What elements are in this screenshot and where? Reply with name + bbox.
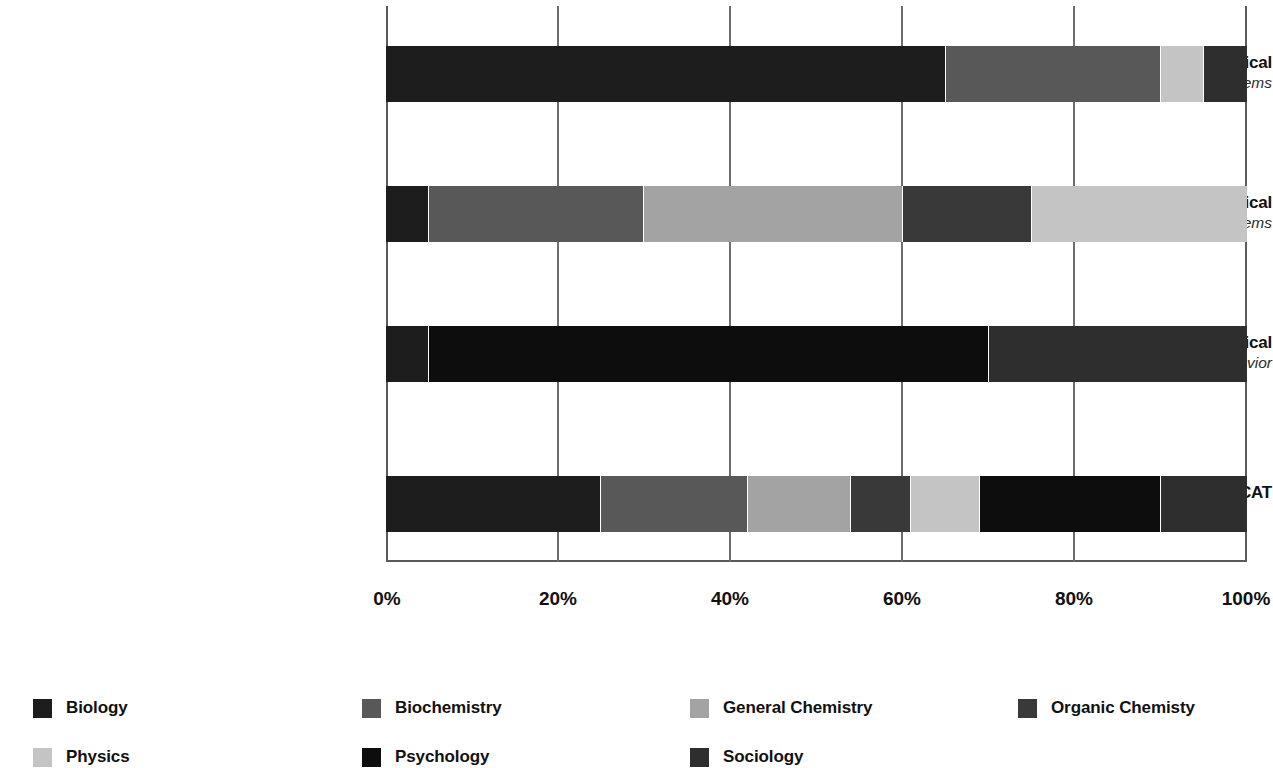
- bar-segment-general-chemistry: [644, 186, 902, 242]
- legend-swatch-icon: [362, 748, 381, 767]
- legend-swatch-icon: [362, 699, 381, 718]
- chart-legend: Biology Biochemistry General Chemistry O…: [0, 686, 1273, 768]
- x-tick-label-100: 100%: [1191, 588, 1273, 610]
- bar-segment-psychology: [429, 326, 989, 382]
- bar-segment-physics: [911, 476, 980, 532]
- bar-row: [386, 326, 1247, 382]
- x-tick-label-40: 40%: [675, 588, 785, 610]
- x-tick-label-60: 60%: [847, 588, 957, 610]
- bar-segment-sociology: [1204, 46, 1247, 102]
- legend-swatch-icon: [690, 699, 709, 718]
- x-tick-label-0: 0%: [332, 588, 442, 610]
- bar-segment-biochemistry: [946, 46, 1161, 102]
- bar-segment-biology: [386, 46, 946, 102]
- x-axis-line: [386, 560, 1247, 562]
- bar-segment-biochemistry: [601, 476, 747, 532]
- x-tick-label-80: 80%: [1019, 588, 1129, 610]
- legend-label: Physics: [66, 747, 130, 767]
- bar-segment-physics: [1161, 46, 1204, 102]
- bar-segment-biochemistry: [429, 186, 644, 242]
- bar-row: [386, 476, 1247, 532]
- bar-segment-biology: [386, 326, 429, 382]
- legend-label: Biochemistry: [395, 698, 502, 718]
- legend-item-psychology[interactable]: Psychology: [362, 745, 489, 768]
- legend-item-biochemistry[interactable]: Biochemistry: [362, 696, 502, 720]
- bar-segment-organic-chemisty: [903, 186, 1032, 242]
- bar-segment-biology: [386, 476, 601, 532]
- legend-swatch-icon: [33, 699, 52, 718]
- legend-swatch-icon: [1018, 699, 1037, 718]
- legend-item-organic-chemistry[interactable]: Organic Chemisty: [1018, 696, 1195, 720]
- legend-item-general-chemistry[interactable]: General Chemistry: [690, 696, 872, 720]
- legend-label: General Chemistry: [723, 698, 872, 718]
- bar-segment-general-chemistry: [748, 476, 851, 532]
- bar-segment-sociology: [989, 326, 1247, 382]
- bar-row: [386, 46, 1247, 102]
- bar-segment-organic-chemisty: [851, 476, 911, 532]
- legend-swatch-icon: [690, 748, 709, 767]
- legend-label: Biology: [66, 698, 128, 718]
- legend-item-biology[interactable]: Biology: [33, 696, 128, 720]
- bar-row: [386, 186, 1247, 242]
- legend-swatch-icon: [33, 748, 52, 767]
- bar-segment-sociology: [1161, 476, 1247, 532]
- bar-segment-psychology: [980, 476, 1161, 532]
- legend-label: Organic Chemisty: [1051, 698, 1195, 718]
- legend-item-sociology[interactable]: Sociology: [690, 745, 803, 768]
- x-tick-label-20: 20%: [503, 588, 613, 610]
- bar-segment-physics: [1032, 186, 1247, 242]
- legend-label: Psychology: [395, 747, 489, 767]
- legend-item-physics[interactable]: Physics: [33, 745, 130, 768]
- legend-label: Sociology: [723, 747, 803, 767]
- bar-segment-biology: [386, 186, 429, 242]
- chart-container: Biological and Biochemical Foundations o…: [0, 0, 1273, 768]
- plot-area: [386, 6, 1247, 562]
